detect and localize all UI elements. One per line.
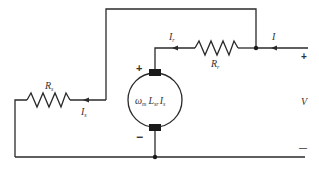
field-wire-left <box>155 48 195 70</box>
motor-brush-bottom <box>149 124 161 131</box>
series-resistor <box>27 93 70 107</box>
arrow-series-current <box>83 98 89 103</box>
label-terminal-minus: — <box>299 143 307 152</box>
label-field-current: Ir <box>168 31 175 43</box>
field-resistor <box>195 41 238 55</box>
label-motor-plus: + <box>136 62 142 74</box>
arrow-supply-current <box>271 46 277 51</box>
series-wire-left <box>15 100 27 157</box>
junction-bottom <box>153 155 157 159</box>
label-armature-emf: ωmLsrIs <box>135 95 166 107</box>
junction-top-right <box>254 46 258 50</box>
motor-brush-top <box>149 69 161 76</box>
label-motor-minus: − <box>136 130 143 144</box>
label-series-current: Is <box>80 106 87 118</box>
label-series-resistor: Rs <box>44 80 54 92</box>
label-field-resistor: Rr <box>210 58 220 70</box>
label-terminal-plus: + <box>301 51 307 62</box>
circuit-diagram: I Ir Rr Rs Is ωmLsrIs + − + V — <box>0 0 319 172</box>
label-terminal-voltage: V <box>301 96 309 107</box>
label-supply-current: I <box>271 31 276 42</box>
arrow-field-current <box>172 46 178 51</box>
top-loop-wire <box>106 9 256 100</box>
